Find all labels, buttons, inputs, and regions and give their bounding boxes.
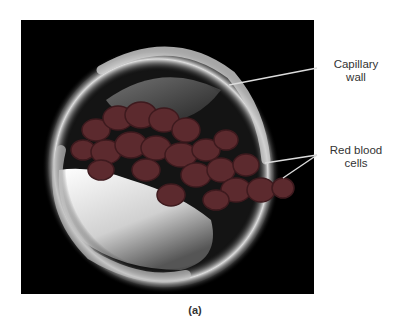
capillary-wall-label: Capillary wall <box>318 58 394 84</box>
label-line: cells <box>318 157 394 170</box>
label-line: Capillary <box>318 58 394 71</box>
label-line: wall <box>318 71 394 84</box>
red-blood-cells-label: Red blood cells <box>318 144 394 170</box>
label-line: Red blood <box>318 144 394 157</box>
figure-caption: (a) <box>150 304 240 316</box>
capillary-illustration <box>21 20 314 294</box>
micrograph-image <box>21 20 314 294</box>
